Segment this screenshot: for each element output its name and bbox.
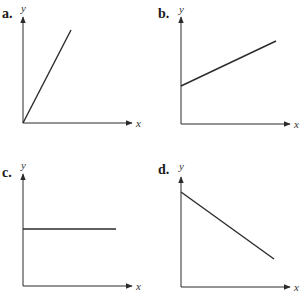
graph-d: d. y x <box>158 160 299 293</box>
data-line <box>181 192 274 259</box>
graph-c: c. y x <box>2 159 141 292</box>
y-axis-label: y <box>20 2 26 14</box>
y-axis-label: y <box>20 159 26 171</box>
data-line <box>23 30 71 123</box>
x-axis-label: x <box>135 117 141 129</box>
x-axis-label: x <box>293 118 299 130</box>
panel-label-d: d. <box>158 162 169 177</box>
panel-label-c: c. <box>2 165 12 180</box>
graph-b: b. y x <box>158 3 299 130</box>
data-line <box>181 41 276 86</box>
y-axis-label: y <box>178 3 184 15</box>
panel-label-a: a. <box>2 6 13 21</box>
x-axis-label: x <box>135 280 141 292</box>
graph-a: a. y x <box>2 2 141 129</box>
y-axis-label: y <box>178 160 184 172</box>
x-axis-label: x <box>293 281 299 293</box>
four-line-graphs-figure: a. y x b. y x c. y x d. y x <box>0 0 300 295</box>
panel-label-b: b. <box>158 6 169 21</box>
